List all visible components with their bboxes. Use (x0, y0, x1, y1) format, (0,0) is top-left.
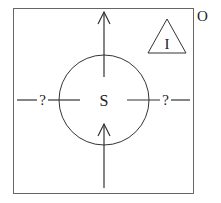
diagram-canvas: O I S ? ? (0, 0, 221, 203)
left-link: ? (17, 92, 80, 108)
incoming-up-arrow (98, 124, 110, 188)
center-label: S (100, 92, 109, 109)
outer-label: O (197, 8, 208, 24)
inner-triangle-label: I (165, 36, 170, 52)
right-link: ? (127, 92, 190, 108)
right-link-label: ? (162, 92, 169, 108)
outgoing-up-arrow (98, 12, 110, 77)
left-link-label: ? (39, 92, 46, 108)
